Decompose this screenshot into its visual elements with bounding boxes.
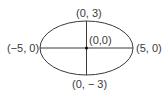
label-top-vertex: (0, 3) [76,8,102,19]
label-right-vertex: (5, 0) [136,43,162,54]
label-bottom-vertex: (0, − 3) [72,79,107,90]
label-left-vertex: (−5, 0) [7,43,39,54]
center-point [85,46,88,49]
label-center: (0,0) [89,35,112,46]
